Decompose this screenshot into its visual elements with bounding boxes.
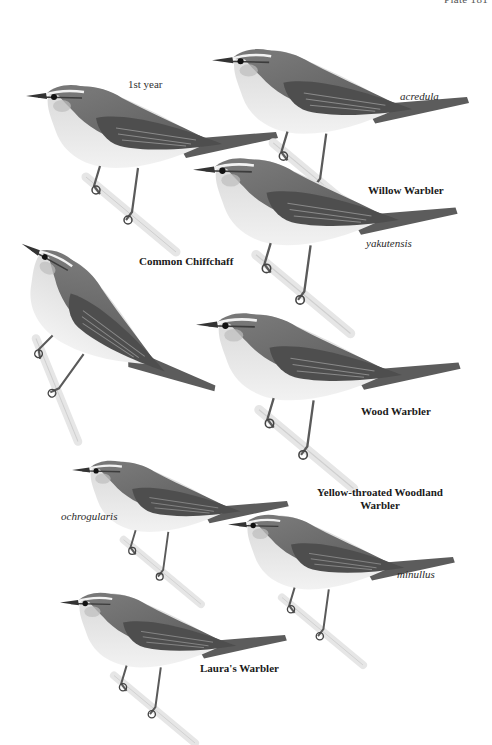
label-yellow-throated-woodland-warbler: Yellow-throated Woodland Warbler <box>296 486 464 512</box>
bird-wood-warbler <box>196 313 461 488</box>
label-yellow-throated-line-2: Warbler <box>296 499 464 512</box>
label-yellow-throated-line-1: Yellow-throated Woodland <box>296 486 464 499</box>
label-willow-warbler: Willow Warbler <box>368 184 444 196</box>
label-minullus: minullus <box>397 568 435 580</box>
label-yakutensis: yakutensis <box>366 237 412 249</box>
label-lauras-warbler: Laura's Warbler <box>200 662 279 674</box>
label-1st-year: 1st year <box>128 78 163 90</box>
label-common-chiffchaff: Common Chiffchaff <box>139 255 233 267</box>
bird-common-chiffchaff <box>0 235 238 487</box>
label-wood-warbler: Wood Warbler <box>361 405 431 417</box>
label-acredula: acredula <box>400 90 439 102</box>
label-ochrogularis: ochrogularis <box>61 510 117 522</box>
plate-illustration <box>0 0 492 745</box>
